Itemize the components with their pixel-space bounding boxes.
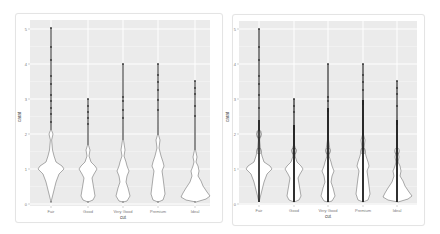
right-y-tick-labels: 0 1 2 3 4 5: [234, 27, 237, 207]
left-y-tick: 4: [25, 62, 28, 67]
left-y-tick: 2: [25, 132, 28, 137]
right-x-tick: Very Good: [319, 208, 338, 213]
right-x-tick-labels: Fair Good Very Good Premium Ideal: [256, 208, 402, 213]
right-x-tick: Fair: [256, 208, 264, 213]
right-y-tick: 2: [234, 132, 237, 137]
left-y-tick: 1: [25, 167, 28, 172]
left-x-tick: Ideal: [191, 209, 200, 214]
left-x-tick: Premium: [150, 209, 167, 214]
left-y-tick: 5: [25, 27, 28, 32]
right-y-tick: 4: [234, 62, 237, 67]
right-x-tick: Good: [289, 208, 299, 213]
left-y-tick: 0: [25, 202, 28, 207]
right-y-tick: 5: [234, 27, 237, 32]
right-x-axis-title: cut: [325, 214, 332, 219]
right-y-axis-title: carat: [225, 111, 230, 122]
left-x-tick: Very Good: [114, 209, 133, 214]
left-plot: 0 1 2 3 4 5 Fair Good Very Good Premium …: [17, 20, 210, 220]
right-y-tick: 3: [234, 97, 237, 102]
left-y-tick-labels: 0 1 2 3 4 5: [25, 27, 28, 207]
left-y-tick: 3: [25, 97, 28, 102]
right-plot: 0 1 2 3 4 5 Fair Good Very Good Premium …: [225, 21, 417, 219]
charts-canvas: 0 1 2 3 4 5 Fair Good Very Good Premium …: [0, 0, 440, 234]
left-x-tick: Good: [83, 209, 93, 214]
left-x-axis-title: cut: [120, 215, 127, 220]
right-x-tick: Ideal: [393, 208, 402, 213]
right-x-tick: Premium: [355, 208, 372, 213]
left-y-axis-title: carat: [17, 111, 22, 122]
left-x-tick-labels: Fair Good Very Good Premium Ideal: [48, 209, 200, 214]
right-y-tick: 1: [234, 167, 237, 172]
right-y-tick: 0: [234, 202, 237, 207]
left-x-tick: Fair: [48, 209, 56, 214]
